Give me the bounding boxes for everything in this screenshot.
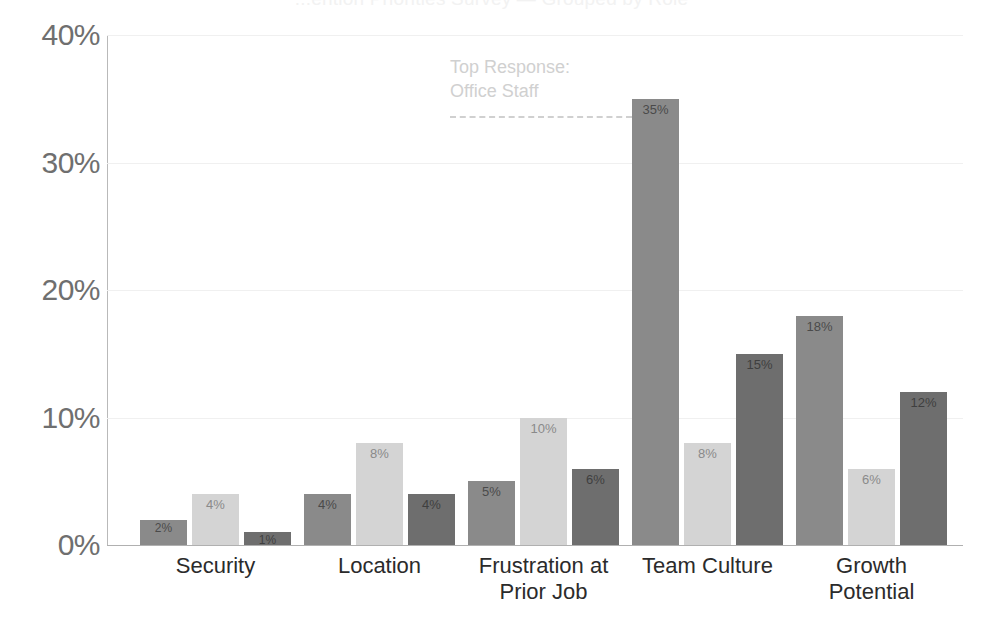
bar: 8% <box>356 443 403 545</box>
bar-value-label: 8% <box>356 446 403 461</box>
bar: 5% <box>468 481 515 545</box>
y-axis-tick-label: 0% <box>8 528 100 562</box>
chart-title: ...ention Priorities Survey — Grouped by… <box>0 0 983 10</box>
bar-value-label: 5% <box>468 484 515 499</box>
annotation-connector-line <box>450 116 632 118</box>
bar: 6% <box>572 469 619 546</box>
gridline <box>107 35 963 36</box>
bar: 4% <box>304 494 351 545</box>
bar: 1% <box>244 532 291 545</box>
bar-value-label: 35% <box>632 102 679 117</box>
gridline <box>107 290 963 291</box>
bar-value-label: 4% <box>192 497 239 512</box>
bar-value-label: 18% <box>796 319 843 334</box>
bar: 6% <box>848 469 895 546</box>
bar: 4% <box>408 494 455 545</box>
y-axis-tick-label: 30% <box>8 146 100 180</box>
bar-value-label: 6% <box>848 472 895 487</box>
y-axis-tick-label: 20% <box>8 273 100 307</box>
bar: 2% <box>140 520 187 546</box>
bar-value-label: 8% <box>684 446 731 461</box>
bar-value-label: 10% <box>520 421 567 436</box>
bar-value-label: 4% <box>408 497 455 512</box>
y-axis-tick-labels: 0%10%20%30%40% <box>0 0 100 634</box>
bar: 15% <box>736 354 783 545</box>
gridline <box>107 163 963 164</box>
bar-value-label: 2% <box>140 521 187 535</box>
bar-value-label: 12% <box>900 395 947 410</box>
bar: 18% <box>796 316 843 546</box>
y-axis-tick-label: 40% <box>8 18 100 52</box>
bar: 12% <box>900 392 947 545</box>
bar-value-label: 6% <box>572 472 619 487</box>
bar-value-label: 4% <box>304 497 351 512</box>
bar: 35% <box>632 99 679 545</box>
plot-area: 2%4%1%4%8%4%5%10%6%35%8%15%18%6%12% <box>107 35 963 545</box>
bar: 8% <box>684 443 731 545</box>
bar: 4% <box>192 494 239 545</box>
bar-value-label: 15% <box>736 357 783 372</box>
x-axis-category-label: Growth Potential <box>762 553 982 605</box>
annotation-top-response: Top Response: Office Staff <box>450 55 570 103</box>
chart-canvas: ...ention Priorities Survey — Grouped by… <box>0 0 983 634</box>
x-axis-line <box>107 545 963 546</box>
y-axis-tick-label: 10% <box>8 401 100 435</box>
bar: 10% <box>520 418 567 546</box>
